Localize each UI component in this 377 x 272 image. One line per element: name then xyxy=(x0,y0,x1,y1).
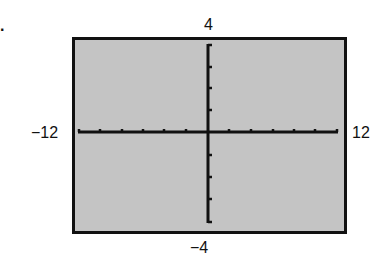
x-max-label: 12 xyxy=(352,125,370,141)
y-min-label: −4 xyxy=(190,240,208,256)
x-min-label: −12 xyxy=(31,125,58,141)
y-max-label: 4 xyxy=(204,17,213,33)
